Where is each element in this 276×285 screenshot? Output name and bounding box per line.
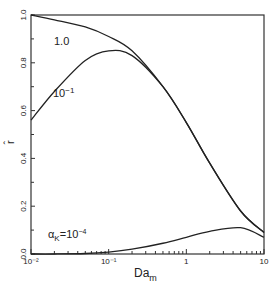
chart: 0.00.20.40.60.81.010⁻²10⁻¹110 1.0 10−1 α… [0,0,276,285]
curve-label-1-0: 1.0 [54,35,69,47]
curve-label-ak-10-minus-4: αK=10−4 [48,228,86,243]
x-tick-label: 1 [184,257,189,266]
series-line-0 [31,15,264,232]
y-tick-label: 0.4 [19,152,28,164]
x-axis-title: Dam [134,266,157,283]
y-tick-label: 0.6 [19,104,28,116]
curve-label-10-minus-1: 10−1 [53,86,75,99]
curves [31,15,264,254]
curve-label-10-minus-1-base: 10 [53,87,65,99]
curve-label-eq: =10 [60,228,79,240]
y-tick-label: 1.0 [19,9,28,21]
x-axis-title-main: Da [134,266,150,280]
y-axis-title: r̂ [3,140,16,145]
x-axis-title-sub: m [149,273,157,283]
y-tick-label: 0.2 [19,200,28,212]
x-tick-label: 10 [260,257,269,266]
plot-area [31,15,264,254]
x-tick-label: 10⁻¹ [101,257,117,266]
plot-frame [31,15,264,254]
curve-label-exp: −4 [78,228,86,235]
curve-label-10-minus-1-exp: −1 [65,86,75,95]
x-tick-label: 10⁻² [23,257,39,266]
series-line-1 [31,50,264,232]
y-tick-label: 0.8 [19,57,28,69]
